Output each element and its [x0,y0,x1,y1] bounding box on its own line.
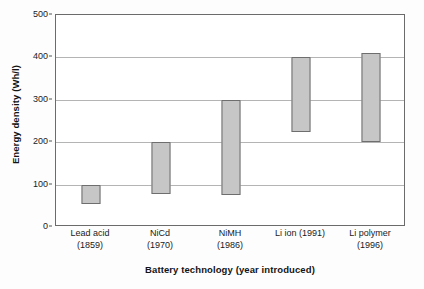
bar-slot [196,15,266,225]
x-axis-tick-label-line2: (1970) [125,240,195,252]
range-bar[interactable] [222,100,241,195]
y-axis-tick-mark [49,226,52,227]
x-axis-tick-label-line2: (1859) [55,240,125,252]
y-axis-tick-label: 100 [33,179,48,189]
x-axis-tick-label-line2: (1996) [335,240,405,252]
y-axis-tick-mark [49,56,52,57]
x-axis-tick-label: Lead acid(1859) [55,228,125,251]
x-axis-tick-label-line2: (1986) [195,240,265,252]
range-bar[interactable] [362,53,381,142]
bar-slot [266,15,336,225]
y-axis-tick-label: 0 [43,221,48,231]
range-bar[interactable] [152,142,171,194]
y-axis-tick-labels: 0100200300400500 [24,14,52,226]
bar-slot [56,15,126,225]
x-axis-tick-label: Li ion (1991) [265,228,335,240]
x-axis-tick-label-line1: Lead acid [70,228,109,238]
x-axis-tick-label-line1: Li ion (1991) [275,228,325,238]
y-axis-tick-label: 300 [33,94,48,104]
x-axis-tick-label-line1: NiCd [150,228,170,238]
range-bar[interactable] [82,185,101,204]
x-axis-tick-label: NiCd(1970) [125,228,195,251]
x-axis-tick-label-line1: NiMH [219,228,242,238]
y-axis-tick-label: 500 [33,9,48,19]
bars-layer [56,15,404,225]
y-axis-tick-mark [49,141,52,142]
x-axis-tick-label: Li polymer(1996) [335,228,405,251]
x-axis-tick-labels: Lead acid(1859)NiCd(1970)NiMH(1986)Li io… [55,228,405,260]
x-axis-title: Battery technology (year introduced) [55,264,405,275]
y-axis-title-text: Energy density (Wh/l) [11,64,22,163]
y-axis-tick-label: 200 [33,136,48,146]
range-bar[interactable] [292,57,311,131]
x-axis-tick-label: NiMH(1986) [195,228,265,251]
bar-slot [336,15,406,225]
plot-area [55,14,405,226]
x-axis-tick-label-line1: Li polymer [349,228,391,238]
y-axis-tick-mark [49,98,52,99]
bar-slot [126,15,196,225]
y-axis-tick-mark [49,14,52,15]
y-axis-tick-mark [49,183,52,184]
y-axis-tick-label: 400 [33,51,48,61]
chart-figure: Energy density (Wh/l) 0100200300400500 L… [0,0,424,289]
